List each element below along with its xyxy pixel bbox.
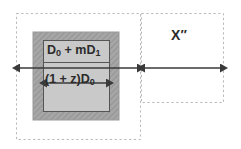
inner-box-bottom-label: (1 + z)D0	[45, 73, 95, 86]
right-region-measure-label: X″	[171, 28, 187, 42]
inner-box-top-label: D0 + mD1	[47, 44, 100, 57]
diagram-canvas: D0 + mD1 (1 + z)D0 X″	[0, 0, 241, 149]
diagram-vector-layer	[0, 0, 241, 149]
